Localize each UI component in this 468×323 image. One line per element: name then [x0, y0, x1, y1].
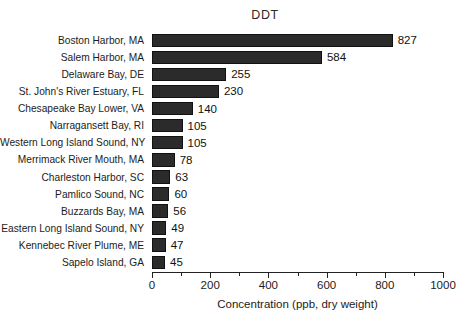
- x-tick-major: [152, 273, 153, 278]
- x-tick-label: 800: [375, 279, 394, 291]
- bar: [152, 51, 322, 64]
- x-tick-minor: [298, 273, 299, 276]
- category-label: Merrimack River Mouth, MA: [0, 151, 148, 168]
- x-axis-title: Concentration (ppb, dry weight): [152, 298, 443, 310]
- x-tick-label: 1000: [430, 279, 456, 291]
- bar-row: 584: [152, 49, 443, 66]
- bar-row: 827: [152, 32, 443, 49]
- bar-track: 47: [152, 238, 443, 251]
- bar: [152, 204, 168, 217]
- bar: [152, 34, 393, 47]
- bar: [152, 221, 166, 234]
- category-axis-labels: Boston Harbor, MASalem Harbor, MADelawar…: [0, 32, 148, 272]
- bar-value-label: 255: [231, 67, 250, 81]
- bar-track: 45: [152, 256, 443, 269]
- bar-row: 49: [152, 220, 443, 237]
- category-label: Boston Harbor, MA: [0, 32, 148, 49]
- bar-track: 140: [152, 102, 443, 115]
- x-tick-major: [268, 273, 269, 278]
- bar-row: 60: [152, 186, 443, 203]
- bar: [152, 238, 166, 251]
- bar-row: 56: [152, 203, 443, 220]
- x-tick-minor: [181, 273, 182, 276]
- category-label: Eastern Long Island Sound, NY: [0, 220, 148, 237]
- x-tick-minor: [414, 273, 415, 276]
- bar-row: 255: [152, 66, 443, 83]
- bar-value-label: 63: [175, 170, 188, 184]
- bar-track: 60: [152, 187, 443, 200]
- bar-value-label: 45: [170, 255, 183, 269]
- category-label: Buzzards Bay, MA: [0, 203, 148, 220]
- bar-track: 49: [152, 221, 443, 234]
- bar-track: 105: [152, 119, 443, 132]
- bar-row: 230: [152, 83, 443, 100]
- x-tick-label: 200: [201, 279, 220, 291]
- ddt-concentration-bar-chart: DDT Boston Harbor, MASalem Harbor, MADel…: [0, 0, 468, 323]
- bar-track: 105: [152, 136, 443, 149]
- bar-value-label: 56: [173, 204, 186, 218]
- bar-value-label: 49: [171, 221, 184, 235]
- bar-value-label: 105: [188, 136, 207, 150]
- bar-value-label: 105: [188, 119, 207, 133]
- bar: [152, 187, 169, 200]
- x-tick-label: 400: [259, 279, 278, 291]
- bar-value-label: 78: [180, 153, 193, 167]
- bar-track: 827: [152, 34, 443, 47]
- category-label: Salem Harbor, MA: [0, 49, 148, 66]
- plot-area: 82758425523014010510578636056494745: [152, 32, 443, 272]
- x-tick-major: [210, 273, 211, 278]
- bar-track: 56: [152, 204, 443, 217]
- bar: [152, 68, 226, 81]
- bar: [152, 153, 175, 166]
- x-tick-major: [443, 273, 444, 278]
- x-tick-major: [327, 273, 328, 278]
- category-label: Delaware Bay, DE: [0, 66, 148, 83]
- bar-value-label: 47: [171, 238, 184, 252]
- category-label: Narragansett Bay, RI: [0, 117, 148, 134]
- bar-track: 584: [152, 51, 443, 64]
- bar: [152, 170, 170, 183]
- category-label: Charleston Harbor, SC: [0, 169, 148, 186]
- category-label: Chesapeake Bay Lower, VA: [0, 100, 148, 117]
- x-tick-major: [385, 273, 386, 278]
- x-tick-minor: [239, 273, 240, 276]
- category-label: Western Long Island Sound, NY: [0, 134, 148, 151]
- bar-row: 63: [152, 169, 443, 186]
- bar-value-label: 584: [327, 50, 346, 64]
- bar-row: 78: [152, 151, 443, 168]
- category-label: Kennebec River Plume, ME: [0, 237, 148, 254]
- bar-row: 105: [152, 117, 443, 134]
- bar: [152, 102, 193, 115]
- bar: [152, 119, 183, 132]
- category-label: Sapelo Island, GA: [0, 254, 148, 271]
- x-tick-minor: [356, 273, 357, 276]
- bar-row: 47: [152, 237, 443, 254]
- chart-title: DDT: [0, 8, 468, 22]
- bar-row: 105: [152, 134, 443, 151]
- bar-value-label: 60: [174, 187, 187, 201]
- bar-track: 63: [152, 170, 443, 183]
- x-tick-label: 600: [317, 279, 336, 291]
- category-label: St. John's River Estuary, FL: [0, 83, 148, 100]
- bar-track: 230: [152, 85, 443, 98]
- bar-track: 78: [152, 153, 443, 166]
- bar-track: 255: [152, 68, 443, 81]
- x-tick-label: 0: [149, 279, 155, 291]
- bar-value-label: 827: [398, 33, 417, 47]
- bar: [152, 256, 165, 269]
- category-label: Pamlico Sound, NC: [0, 186, 148, 203]
- bar: [152, 136, 183, 149]
- bar-row: 140: [152, 100, 443, 117]
- bar: [152, 85, 219, 98]
- bar-row: 45: [152, 254, 443, 271]
- bar-value-label: 140: [198, 102, 217, 116]
- bar-value-label: 230: [224, 84, 243, 98]
